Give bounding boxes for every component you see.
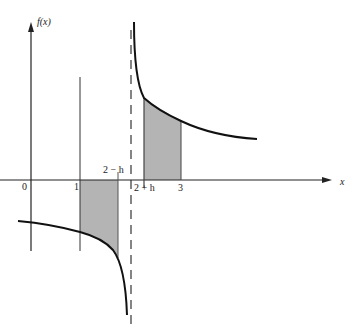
y-axis-label: f(x) xyxy=(37,16,52,28)
x-axis-arrow-icon xyxy=(322,177,332,183)
tick-label-2-plus-h: 2 + h xyxy=(134,182,155,193)
shaded-region-left xyxy=(80,180,118,258)
improper-integral-diagram: f(x) x 0 1 2 − h 2 + h 3 xyxy=(0,0,359,335)
tick-label-2-minus-h: 2 − h xyxy=(103,164,124,175)
tick-label-one: 1 xyxy=(74,181,79,192)
tick-label-origin: 0 xyxy=(22,181,27,192)
y-axis-arrow-icon xyxy=(28,22,34,32)
x-axis-label: x xyxy=(339,176,345,187)
tick-label-three: 3 xyxy=(178,182,183,193)
